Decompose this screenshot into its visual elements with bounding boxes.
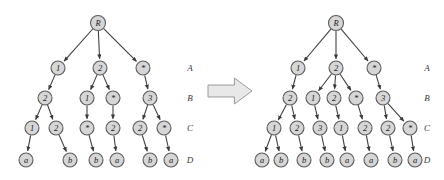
left-tree-node: 2 — [49, 121, 63, 135]
left-tree-edges — [28, 29, 169, 152]
left-tree-node-label: 1 — [56, 63, 60, 73]
right-tree-edge — [390, 135, 393, 151]
right-tree-node: b — [297, 153, 311, 167]
right-tree-edge — [376, 75, 380, 89]
left-tree-edge — [49, 75, 55, 90]
left-tree-node-label: R — [94, 18, 101, 28]
left-tree-node: 2 — [38, 91, 52, 105]
right-tree-node: 2 — [381, 121, 395, 135]
right-tree-node: 1 — [291, 61, 305, 75]
left-tree-node: a — [19, 153, 33, 167]
left-tree-edge — [89, 135, 93, 151]
left-tree-node: R — [91, 16, 106, 31]
left-tree-node-label: b — [94, 155, 98, 165]
diagram-svg: R12*21*312*22*abbaba R12*212*3123122*abb… — [0, 0, 444, 180]
right-tree-edge — [335, 75, 336, 88]
right-tree-nodes: R12*212*3123122*abbbaaba — [255, 16, 422, 168]
right-tree-node: 3 — [313, 121, 327, 135]
left-tree-node-label: a — [24, 155, 28, 165]
left-tree-node-label: 1 — [85, 93, 89, 103]
left-tree-node: b — [143, 153, 157, 167]
right-tree-node: 1 — [267, 121, 281, 135]
right-tree-node-label: a — [369, 155, 373, 165]
right-tree-level-labels: ABCD — [423, 63, 431, 165]
right-tree-node-label: R — [332, 18, 339, 28]
right-tree-edge — [265, 135, 271, 151]
left-tree-edge — [166, 135, 169, 151]
right-tree-node-label: 3 — [317, 123, 322, 133]
right-tree-edge — [278, 105, 286, 120]
right-tree-edge — [341, 29, 368, 61]
left-tree-edge — [48, 105, 53, 119]
right-tree-node: 1 — [334, 121, 348, 135]
right-tree-node-label: a — [413, 155, 417, 165]
right-tree-edge — [411, 135, 413, 151]
left-tree-node: a — [110, 153, 124, 167]
right-tree-node-label: a — [345, 155, 349, 165]
right-tree-node: a — [340, 153, 354, 167]
right-tree-node-label: a — [260, 155, 264, 165]
right-tree-node-label: 1 — [339, 123, 343, 133]
left-tree-node: 1 — [80, 91, 94, 105]
left-tree-node: * — [136, 61, 150, 75]
right-tree-node: R — [329, 16, 344, 31]
right-level-label-d: D — [423, 155, 431, 165]
right-tree-edge — [319, 74, 332, 91]
left-tree-node: b — [63, 153, 77, 167]
right-tree-node-label: b — [302, 155, 306, 165]
left-tree-node: * — [106, 91, 120, 105]
left-tree-edge — [104, 29, 137, 62]
right-tree-node-label: 1 — [272, 123, 276, 133]
left-tree-node: 1 — [51, 61, 65, 75]
left-tree-level-labels: ABCD — [186, 63, 194, 165]
left-tree-edge — [28, 135, 31, 151]
right-tree-edge — [342, 135, 345, 151]
left-level-label-d: D — [186, 155, 194, 165]
right-tree-node: 2 — [329, 61, 343, 75]
right-tree-node: 2 — [283, 91, 297, 105]
right-tree-node: b — [388, 153, 402, 167]
right-tree-node: 3 — [376, 91, 390, 105]
left-tree-edge — [145, 75, 148, 89]
right-tree-edge — [358, 105, 362, 119]
right-tree-node: 2 — [327, 91, 341, 105]
right-tree-node: * — [367, 61, 381, 75]
right-tree-edge — [340, 74, 351, 90]
left-tree-node: 2 — [133, 121, 147, 135]
right-tree-edge — [315, 105, 318, 119]
right-tree-node-label: b — [393, 155, 397, 165]
left-tree-node-label: 3 — [147, 93, 152, 103]
right-tree-node-label: b — [279, 155, 283, 165]
left-tree-edge — [64, 29, 93, 61]
right-tree-node: 2 — [290, 121, 304, 135]
left-tree-node: * — [80, 121, 94, 135]
left-tree-node-label: a — [115, 155, 119, 165]
left-tree-node: * — [157, 121, 171, 135]
left-tree-edge — [36, 105, 42, 120]
rightward-block-arrow — [208, 78, 252, 104]
right-tree-edge — [366, 135, 369, 151]
left-tree-node-label: 1 — [30, 123, 34, 133]
right-tree-edge — [304, 29, 331, 61]
right-tree-edge — [336, 105, 339, 119]
left-tree-node: 2 — [93, 61, 107, 75]
right-tree-edge — [384, 105, 386, 119]
left-tree-edge — [143, 105, 148, 119]
right-tree-edge — [292, 75, 296, 89]
right-tree-node: b — [274, 153, 288, 167]
right-tree-edge — [292, 105, 295, 119]
right-tree-node-label: 1 — [296, 63, 300, 73]
left-level-label-a: A — [186, 63, 193, 73]
right-tree-node-label: 1 — [311, 93, 315, 103]
right-level-label-c: C — [424, 123, 431, 133]
right-tree-edge — [276, 135, 279, 151]
left-tree-edge — [91, 75, 97, 90]
left-tree-edge — [114, 135, 116, 150]
right-tree-node: a — [364, 153, 378, 167]
figure-canvas: R12*21*312*22*abbaba R12*212*3123122*abb… — [0, 0, 444, 180]
left-tree-edge — [142, 135, 147, 151]
right-tree-node-label: b — [325, 155, 329, 165]
right-tree-edge — [322, 135, 325, 151]
right-tree-node: a — [408, 153, 422, 167]
left-tree-edge — [153, 105, 160, 120]
